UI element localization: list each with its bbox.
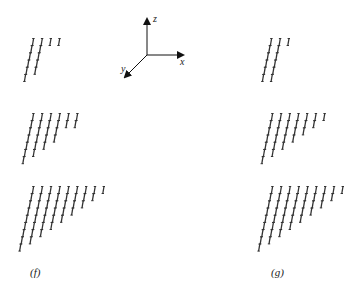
dislocation-glyph bbox=[74, 121, 77, 128]
dislocation-glyph bbox=[303, 121, 306, 128]
dislocation-glyph bbox=[23, 223, 26, 230]
dislocation-glyph bbox=[259, 237, 262, 244]
y-axis-arrow bbox=[125, 55, 147, 77]
dislocation-glyph bbox=[93, 187, 96, 194]
dislocation-glyph bbox=[54, 201, 57, 208]
dislocation-glyph bbox=[57, 39, 60, 46]
dislocation-glyph bbox=[283, 135, 286, 142]
dislocation-glyph bbox=[272, 67, 275, 74]
dislocation-glyph bbox=[34, 142, 37, 149]
dislocation-glyph bbox=[274, 208, 277, 215]
dislocation-glyph bbox=[309, 208, 312, 215]
dislocation-glyph bbox=[30, 230, 33, 237]
dislocation-glyph bbox=[38, 194, 41, 201]
dislocation-glyph bbox=[58, 114, 61, 121]
dislocation-glyph bbox=[58, 187, 61, 194]
dislocation-glyph bbox=[23, 75, 26, 82]
dislocation-glyph bbox=[271, 150, 274, 157]
dislocation-glyph bbox=[321, 194, 324, 201]
dislocation-glyph bbox=[281, 215, 284, 222]
dislocation-glyph bbox=[75, 114, 78, 121]
dislocation-glyph bbox=[265, 208, 268, 215]
dislocation-glyph bbox=[102, 187, 105, 194]
dislocation-glyph bbox=[30, 46, 33, 53]
dislocation-glyph bbox=[286, 121, 289, 128]
dislocation-glyph bbox=[295, 121, 298, 128]
dislocation-arrays bbox=[18, 39, 344, 252]
dislocation-glyph bbox=[37, 201, 40, 208]
dislocation-glyph bbox=[323, 187, 326, 194]
dislocation-glyph bbox=[70, 208, 73, 215]
dislocation-glyph bbox=[53, 208, 56, 215]
dislocation-glyph bbox=[269, 121, 272, 128]
dislocation-glyph bbox=[269, 194, 272, 201]
dislocation-glyph bbox=[50, 223, 53, 230]
dislocation-glyph bbox=[49, 114, 52, 121]
dislocation-glyph bbox=[39, 230, 42, 237]
dislocation-glyph bbox=[273, 142, 276, 149]
dislocation-glyph bbox=[35, 208, 38, 215]
dislocation-glyph bbox=[264, 60, 267, 67]
dislocation-glyph bbox=[279, 114, 282, 121]
dislocation-glyph bbox=[37, 53, 40, 60]
diagram-canvas bbox=[0, 0, 360, 289]
dislocation-glyph bbox=[74, 194, 77, 201]
dislocation-glyph bbox=[60, 215, 63, 222]
dislocation-glyph bbox=[266, 53, 269, 60]
dislocation-glyph bbox=[330, 194, 333, 201]
dislocation-glyph bbox=[322, 114, 325, 121]
dislocation-glyph bbox=[81, 201, 84, 208]
dislocation-glyph bbox=[261, 230, 264, 237]
dislocation-glyph bbox=[47, 121, 50, 128]
dislocation-glyph bbox=[274, 135, 277, 142]
dislocation-glyph bbox=[290, 215, 293, 222]
dislocation-glyph bbox=[275, 53, 278, 60]
dislocation-glyph bbox=[277, 194, 280, 201]
dislocation-glyph bbox=[30, 194, 33, 201]
dislocation-glyph bbox=[269, 230, 272, 237]
dislocation-glyph bbox=[341, 187, 344, 194]
dislocation-glyph bbox=[44, 208, 47, 215]
dislocation-glyph bbox=[22, 230, 25, 237]
dislocation-glyph bbox=[271, 223, 274, 230]
dislocation-glyph bbox=[301, 208, 304, 215]
dislocation-glyph bbox=[305, 114, 308, 121]
dislocation-glyph bbox=[292, 208, 295, 215]
dislocation-glyph bbox=[34, 67, 37, 74]
dislocation-glyph bbox=[257, 244, 260, 251]
dislocation-glyph bbox=[299, 215, 302, 222]
dislocation-glyph bbox=[276, 128, 279, 135]
dislocation-glyph bbox=[265, 135, 268, 142]
dislocation-glyph bbox=[22, 157, 25, 164]
dislocation-glyph bbox=[278, 39, 281, 46]
dislocation-glyph bbox=[62, 208, 65, 215]
dislocation-glyph bbox=[270, 187, 273, 194]
dislocation-glyph bbox=[273, 215, 276, 222]
dislocation-glyph bbox=[28, 201, 31, 208]
dislocation-glyph bbox=[31, 187, 34, 194]
dislocation-glyph bbox=[30, 121, 33, 128]
dislocation-glyph bbox=[304, 194, 307, 201]
coordinate-axes bbox=[125, 19, 183, 77]
dislocation-glyph bbox=[268, 237, 271, 244]
dislocation-glyph bbox=[305, 187, 308, 194]
dislocation-glyph bbox=[37, 128, 40, 135]
dislocation-glyph bbox=[65, 194, 68, 201]
dislocation-glyph bbox=[283, 208, 286, 215]
dislocation-glyph bbox=[20, 237, 23, 244]
dislocation-glyph bbox=[42, 215, 45, 222]
dislocation-glyph bbox=[312, 121, 315, 128]
dislocation-glyph bbox=[279, 187, 282, 194]
panel-label-f: (f) bbox=[30, 266, 40, 278]
dislocation-glyph bbox=[84, 187, 87, 194]
dislocation-glyph bbox=[25, 67, 28, 74]
dislocation-glyph bbox=[261, 157, 264, 164]
dislocation-glyph bbox=[82, 194, 85, 201]
dislocation-glyph bbox=[332, 187, 335, 194]
dislocation-glyph bbox=[54, 128, 57, 135]
dislocation-glyph bbox=[25, 142, 28, 149]
dislocation-glyph bbox=[270, 114, 273, 121]
dislocation-glyph bbox=[56, 194, 59, 201]
dislocation-glyph bbox=[267, 201, 270, 208]
dislocation-glyph bbox=[42, 142, 45, 149]
